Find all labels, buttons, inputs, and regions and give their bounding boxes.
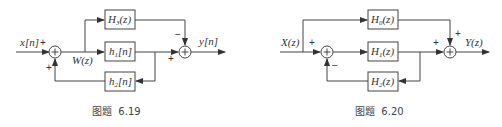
figure-caption: 图题 6.20 [355, 106, 404, 117]
sum2-left-sign: + [433, 37, 439, 48]
sum1-input-sign: + [309, 37, 315, 48]
figure-6-20: X(z) + H0(z) H1(z) H2(z) [280, 10, 489, 117]
summing-junction-2 [444, 46, 456, 58]
feedback-tap-arrow [136, 52, 155, 81]
svg-text:H0(z): H0(z) [370, 13, 394, 27]
block-h1: h1[n] [105, 42, 135, 61]
figure-6-19: x[n] + W(z) H3(z) h1[n] h2[n] − [16, 10, 225, 117]
summing-junction-2 [179, 46, 191, 58]
output-label: y[n] [198, 35, 218, 47]
block-h3: H3(z) [105, 10, 135, 29]
svg-text:H3(z): H3(z) [107, 13, 131, 27]
sum2-top-sign: − [175, 29, 181, 40]
sum2-top-sign: + [455, 28, 461, 39]
sum1-input-sign: + [40, 37, 46, 48]
sum2-left-sign: + [168, 53, 174, 64]
output-label: Y(z) [465, 36, 483, 49]
block-diagrams: x[n] + W(z) H3(z) h1[n] h2[n] − [0, 0, 502, 127]
input-label: X(z) [280, 36, 300, 49]
node-label-w: W(z) [72, 54, 93, 67]
block-h1: H1(z) [368, 42, 398, 61]
input-label: x[n] [19, 36, 39, 48]
block-h2: h2[n] [105, 72, 135, 91]
block-h0: H0(z) [368, 10, 398, 29]
svg-text:h1[n]: h1[n] [109, 45, 132, 59]
svg-text:H2(z): H2(z) [370, 75, 394, 89]
summing-junction-1 [49, 46, 61, 58]
svg-text:H1(z): H1(z) [370, 45, 394, 59]
figure-caption: 图题 6.19 [92, 106, 141, 117]
branch-arrow-top [85, 20, 104, 52]
svg-text:h2[n]: h2[n] [109, 75, 132, 89]
sum1-feedback-sign: + [46, 62, 52, 73]
sum1-feedback-sign: − [332, 60, 338, 71]
block-h2: H2(z) [368, 72, 398, 91]
top-path-arrow [398, 20, 450, 45]
summing-junction-1 [321, 46, 333, 58]
feedback-tap-arrow [399, 52, 420, 81]
